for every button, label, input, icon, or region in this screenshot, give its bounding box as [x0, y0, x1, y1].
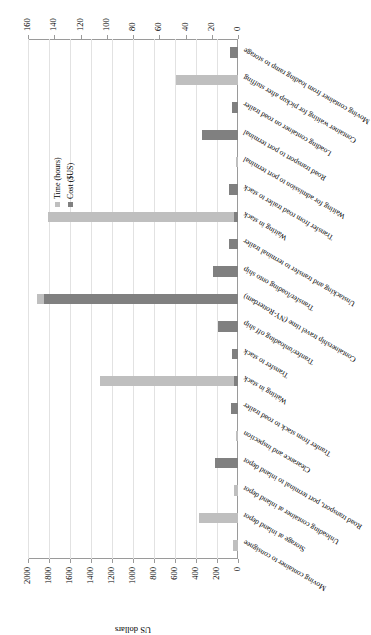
- bar-cost[interactable]: [234, 212, 238, 222]
- primary-axis-tick: [238, 559, 239, 563]
- primary-axis-tick-label: 1200: [107, 567, 116, 607]
- bar-group[interactable]: [28, 513, 238, 523]
- category-label-text: Transfer to stack: [242, 347, 290, 379]
- legend-item[interactable]: Cost ($US): [65, 157, 76, 207]
- category-label-text: Tranfer from stack to road trailer: [242, 402, 333, 459]
- bar-time[interactable]: [236, 157, 238, 167]
- category-label-text: Moving container to consignee: [242, 538, 328, 592]
- primary-axis-tick-label: 1800: [44, 567, 53, 607]
- secondary-axis-tick: [28, 35, 29, 39]
- primary-axis-tick: [196, 559, 197, 563]
- bar-cost[interactable]: [44, 294, 238, 304]
- bar-time[interactable]: [236, 431, 238, 441]
- bar-time[interactable]: [48, 212, 238, 222]
- plot-area: 0200400600800100012001400160018002000020…: [28, 39, 238, 559]
- secondary-axis-tick: [238, 35, 239, 39]
- legend-label: Time (hours): [52, 157, 63, 199]
- secondary-axis-tick-label: 120: [76, 0, 85, 31]
- legend-swatch-icon: [68, 202, 73, 207]
- primary-axis-tick: [70, 559, 71, 563]
- legend-item[interactable]: Time (hours): [52, 157, 63, 207]
- category-axis-labels: Moving container to consigneeStorage at …: [240, 39, 310, 559]
- bar-time[interactable]: [176, 75, 238, 85]
- secondary-axis-tick: [81, 35, 82, 39]
- category-label-text: Loading container on road trailer: [242, 100, 333, 157]
- secondary-axis-tick: [159, 35, 160, 39]
- primary-axis-tick-label: 2000: [23, 567, 32, 607]
- primary-axis-title: US dollars: [115, 625, 151, 635]
- bar-cost[interactable]: [230, 48, 238, 58]
- primary-axis-tick-label: 0: [233, 567, 242, 607]
- chart-legend: Time (hours)Cost ($US): [52, 157, 78, 207]
- primary-axis-tick: [28, 559, 29, 563]
- category-label-text: Road transport to port terminal: [242, 128, 327, 182]
- category-label-text: Waiting in stack: [242, 210, 289, 242]
- secondary-axis-tick: [107, 35, 108, 39]
- bar-group[interactable]: [28, 212, 238, 222]
- legend-swatch-icon: [55, 202, 60, 207]
- bar-cost[interactable]: [229, 184, 238, 194]
- bar-cost[interactable]: [234, 376, 238, 386]
- primary-axis-tick-label: 800: [149, 567, 158, 607]
- primary-axis-tick-label: 1000: [128, 567, 137, 607]
- category-label-text: Waiting in stack: [242, 374, 289, 406]
- bar-chart-figure: US dollars Hours 02004006008001000120014…: [0, 0, 313, 631]
- bar-cost[interactable]: [231, 403, 238, 413]
- primary-axis-tick: [91, 559, 92, 563]
- primary-axis-tick-label: 1600: [65, 567, 74, 607]
- primary-axis-tick-label: 200: [212, 567, 221, 607]
- primary-axis-tick-label: 1400: [86, 567, 95, 607]
- bar-time[interactable]: [233, 540, 238, 550]
- secondary-axis-tick: [133, 35, 134, 39]
- bar-cost[interactable]: [202, 130, 238, 140]
- primary-axis-tick: [49, 559, 50, 563]
- primary-axis-tick: [154, 559, 155, 563]
- bar-cost[interactable]: [215, 458, 238, 468]
- bar-group[interactable]: [28, 294, 238, 304]
- bar-group[interactable]: [28, 75, 238, 85]
- rotated-figure-wrapper: US dollars Hours 02004006008001000120014…: [0, 0, 313, 631]
- primary-axis-tick: [133, 559, 134, 563]
- secondary-axis-tick-label: 140: [49, 0, 58, 31]
- secondary-axis-tick: [54, 35, 55, 39]
- bar-group[interactable]: [28, 130, 238, 140]
- bar-cost[interactable]: [229, 239, 238, 249]
- bar-cost[interactable]: [213, 266, 238, 276]
- bar-cost[interactable]: [218, 321, 238, 331]
- bar-group[interactable]: [28, 540, 238, 550]
- primary-axis-tick: [112, 559, 113, 563]
- bar-time[interactable]: [199, 513, 238, 523]
- primary-axis-tick: [175, 559, 176, 563]
- secondary-axis-tick-label: 100: [102, 0, 111, 31]
- bar-time[interactable]: [100, 376, 238, 386]
- category-label-text: Transfer from road trailer to stack: [242, 183, 335, 241]
- bar-cost[interactable]: [232, 349, 239, 359]
- bar-cost[interactable]: [232, 102, 238, 112]
- primary-axis-tick: [217, 559, 218, 563]
- bar-group[interactable]: [28, 376, 238, 386]
- legend-label: Cost ($US): [65, 163, 76, 199]
- primary-axis-tick-label: 400: [191, 567, 200, 607]
- bar-time[interactable]: [234, 485, 238, 495]
- primary-axis-tick-label: 600: [170, 567, 179, 607]
- secondary-axis-tick-label: 160: [23, 0, 32, 31]
- secondary-axis-tick-label: 0: [233, 0, 242, 31]
